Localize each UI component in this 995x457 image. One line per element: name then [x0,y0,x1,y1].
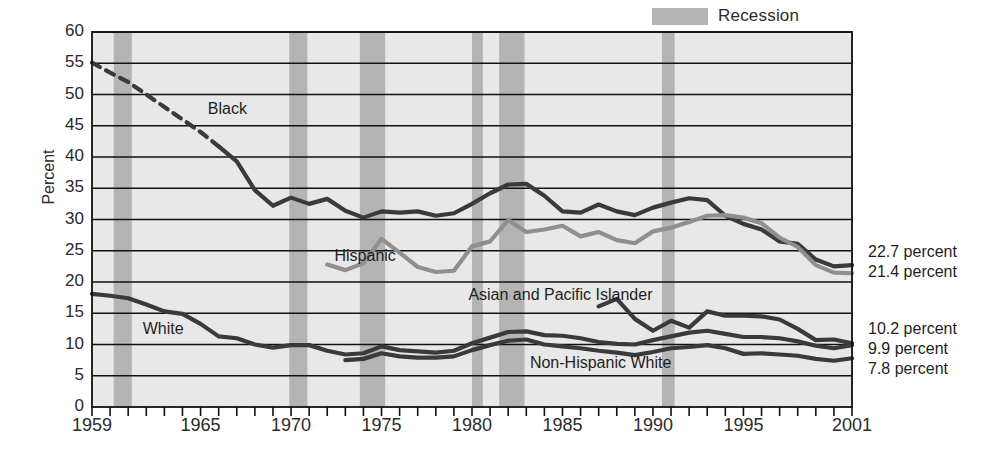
series-label-asian-and-pacific-islander: Asian and Pacific Islander [468,286,652,304]
x-axis-tick-labels: 195919651970197519801985199019952001 [0,0,995,457]
end-value-label: 21.4 percent [868,263,957,281]
series-label-non-hispanic-white: Non-Hispanic White [530,354,671,372]
end-value-label: 7.8 percent [868,360,948,378]
series-label-white: White [143,320,184,338]
end-value-label: 10.2 percent [868,320,957,338]
x-tick-label: 1990 [633,415,673,436]
x-tick-label: 1975 [361,415,401,436]
series-label-hispanic: Hispanic [334,247,395,265]
x-tick-label: 1980 [452,415,492,436]
series-label-black: Black [208,100,247,118]
poverty-rate-line-chart: Recession Percent 0510152025303540455055… [0,0,995,457]
end-value-label: 22.7 percent [868,243,957,261]
x-tick-label: 2001 [832,415,872,436]
x-tick-label: 1970 [271,415,311,436]
x-tick-label: 1995 [723,415,763,436]
x-tick-label: 1965 [181,415,221,436]
x-tick-label: 1985 [542,415,582,436]
x-tick-label: 1959 [72,415,112,436]
end-value-label: 9.9 percent [868,340,948,358]
